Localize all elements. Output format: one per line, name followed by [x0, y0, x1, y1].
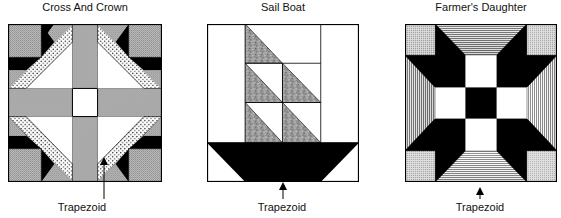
arrow-icon: [279, 182, 287, 199]
sail-boat-trapezoid-label: Trapezoid: [242, 201, 322, 213]
arrow-icon: [100, 157, 108, 199]
arrow-icon: [476, 187, 484, 199]
farmers-daughter-trapezoid-label: Trapezoid: [440, 201, 520, 213]
cross-and-crown-trapezoid-label: Trapezoid: [42, 201, 122, 213]
trapezoid-arrows: [0, 0, 561, 218]
